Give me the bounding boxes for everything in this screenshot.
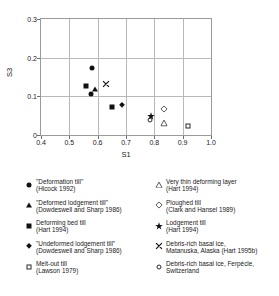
legend-column-left: "Deformation till"(Hicock 1992)"Deformed… (24, 178, 146, 281)
marker-circle-filled (26, 182, 31, 187)
legend-entry: "Undeformed lodgement till"(Dowdeswell a… (24, 240, 146, 255)
marker-star (155, 222, 163, 230)
legend-label-line1: "Deformed lodgement till" (36, 199, 146, 206)
scatter-chart-figure: S3 00.10.20.3 0.40.50.60.70.80.91.0 S1 (0, 0, 279, 176)
legend-swatch-star (154, 221, 163, 230)
legend-label-line1: Debris-rich basal ice, Ferpècle, (166, 260, 279, 267)
legend-label: Debris-rich basal ice,Matanuska, Alaska … (166, 240, 279, 255)
marker-triangle-filled (92, 86, 98, 91)
x-axis-title: S1 (40, 150, 212, 159)
marker-diamond-filled (119, 102, 125, 108)
legend-swatch-square-open (24, 262, 33, 271)
marker-circle-filled (88, 91, 93, 96)
legend-label-line1: "Deformation till" (36, 178, 146, 185)
x-tick-label: 0.5 (57, 139, 81, 147)
legend-label: Debris-rich basal ice, Ferpècle,Switzerl… (166, 260, 279, 275)
x-tick-label: 0.4 (29, 139, 53, 147)
legend-entry: "Deformation till"(Hicock 1992) (24, 178, 146, 193)
legend-label-line2: (Hart 1994) (166, 226, 279, 233)
legend-label-line2: (Dowdeswell and Sharp 1986) (36, 247, 146, 254)
legend-label-line2: (Clark and Hansel 1989) (166, 206, 279, 213)
x-tick-label: 1.0 (199, 139, 223, 147)
marker-circle-open (156, 264, 161, 269)
legend-label-line1: Ploughed till (166, 199, 279, 206)
marker-x (102, 80, 109, 87)
legend-swatch-diamond-open (154, 201, 163, 210)
legend-swatch-triangle-open (154, 180, 163, 189)
legend-swatch-circle-open (154, 262, 163, 271)
legend-entry: "Deformed lodgement till"(Dowdeswell and… (24, 199, 146, 214)
legend-entry: Debris-rich basal ice,Matanuska, Alaska … (154, 240, 279, 255)
legend-label-line2: Matanuska, Alaska (Hart 1995b) (166, 247, 279, 254)
legend-column-right: Very thin deforming layer(Hart 1994)Plou… (154, 178, 279, 281)
gridline-vertical (126, 19, 127, 135)
legend-label-line2: (Hart 1994) (36, 226, 146, 233)
y-axis-tick-labels: 00.10.20.3 (0, 18, 37, 136)
legend-label-line2: (Hicock 1992) (36, 185, 146, 192)
gridline-horizontal (41, 96, 211, 97)
x-tick-label: 0.6 (86, 139, 110, 147)
legend-entry: Ploughed till(Clark and Hansel 1989) (154, 199, 279, 214)
legend-label: "Undeformed lodgement till"(Dowdeswell a… (36, 240, 146, 255)
marker-diamond-filled (26, 243, 32, 249)
legend-swatch-square-filled (24, 221, 33, 230)
legend-swatch-triangle-filled (24, 201, 33, 210)
legend-entry: Very thin deforming layer(Hart 1994) (154, 178, 279, 193)
legend-label: Very thin deforming layer(Hart 1994) (166, 178, 279, 193)
marker-square-filled (26, 223, 31, 228)
legend-label-line1: Deforming bed till (36, 219, 146, 226)
legend-swatch-x (154, 242, 163, 251)
legend-label: Lodgement till(Hart 1994) (166, 219, 279, 234)
marker-triangle-open (155, 181, 162, 188)
y-tick-label: 0.1 (1, 93, 37, 100)
x-tick-label: 0.7 (114, 139, 138, 147)
marker-diamond-open (160, 105, 167, 112)
legend-label-line1: Melt-out till (36, 260, 146, 267)
legend-label-line1: Lodgement till (166, 219, 279, 226)
marker-square-filled (84, 83, 89, 88)
x-tick-label: 0.9 (171, 139, 195, 147)
gridline-vertical (183, 19, 184, 135)
legend-label-line1: Debris-rich basal ice, (166, 240, 279, 247)
marker-square-filled (109, 105, 114, 110)
legend-label-line1: "Undeformed lodgement till" (36, 240, 146, 247)
marker-x (155, 243, 162, 250)
legend-label: Melt-out till(Lawson 1979) (36, 260, 146, 275)
gridline-vertical (69, 19, 70, 135)
marker-square-open (185, 124, 190, 129)
y-tick-label: 0.3 (1, 16, 37, 23)
legend-label-line1: Very thin deforming layer (166, 178, 279, 185)
legend-label-line2: (Hart 1994) (166, 185, 279, 192)
legend-entry: Deforming bed till(Hart 1994) (24, 219, 146, 234)
marker-diamond-open (155, 202, 162, 209)
legend-label-line2: (Dowdeswell and Sharp 1986) (36, 206, 146, 213)
y-tick-label: 0.2 (1, 55, 37, 62)
marker-triangle-open (161, 120, 168, 127)
legend-swatch-diamond-filled (24, 242, 33, 251)
chart-legend: "Deformation till"(Hicock 1992)"Deformed… (0, 178, 279, 296)
legend-label: "Deformation till"(Hicock 1992) (36, 178, 146, 193)
legend-label: "Deformed lodgement till"(Dowdeswell and… (36, 199, 146, 214)
legend-entry: Melt-out till(Lawson 1979) (24, 260, 146, 275)
marker-triangle-filled (26, 203, 32, 208)
y-tick-label: 0 (1, 132, 37, 139)
gridline-horizontal (41, 58, 211, 59)
legend-swatch-circle-filled (24, 180, 33, 189)
marker-circle-filled (90, 66, 95, 71)
legend-label-line2: (Lawson 1979) (36, 267, 146, 274)
legend-label: Ploughed till(Clark and Hansel 1989) (166, 199, 279, 214)
legend-label: Deforming bed till(Hart 1994) (36, 219, 146, 234)
legend-label-line2: Switzerland (166, 267, 279, 274)
marker-square-open (26, 264, 31, 269)
plot-area (40, 18, 212, 136)
x-tick-label: 0.8 (142, 139, 166, 147)
marker-circle-open (148, 117, 153, 122)
gridline-vertical (98, 19, 99, 135)
legend-entry: Debris-rich basal ice, Ferpècle,Switzerl… (154, 260, 279, 275)
legend-entry: Lodgement till(Hart 1994) (154, 219, 279, 234)
